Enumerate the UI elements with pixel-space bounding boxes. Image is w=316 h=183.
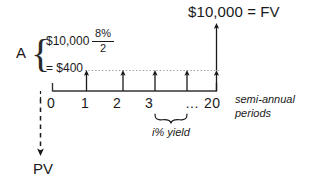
cash-flow-timeline-diagram: $10,000 = FV A { $10,000 8% 2 = $400 0 1… — [0, 0, 316, 183]
timeline-vector-graphics — [0, 0, 316, 183]
yield-interval-brace — [155, 114, 187, 123]
